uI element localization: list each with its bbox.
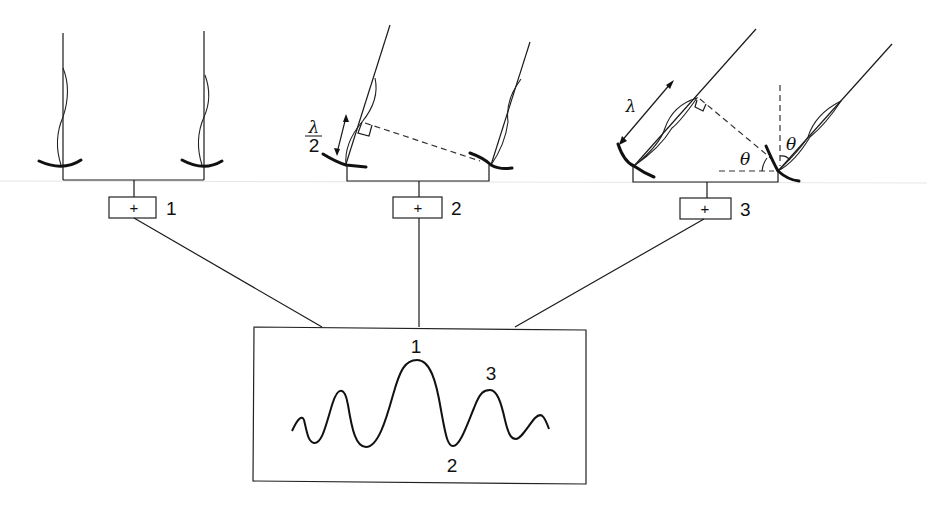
config-1: + 1 <box>39 31 322 327</box>
arrow-head-icon <box>619 136 627 145</box>
antenna-1b-dish-icon <box>182 160 222 166</box>
wavefront-line-2 <box>365 123 480 161</box>
antenna-2a-ray <box>346 25 390 164</box>
baseline-3 <box>633 166 778 182</box>
antenna-2b-ray <box>491 42 530 165</box>
antenna-2b-dish-icon <box>470 153 512 169</box>
config-label-2: 2 <box>451 198 462 219</box>
lambda-label: λ <box>625 96 637 116</box>
peak-label-3: 3 <box>486 363 497 384</box>
baseline-2 <box>347 165 489 181</box>
config-2: λ 2 + 2 <box>305 25 530 327</box>
theta-label-2: θ <box>786 134 796 154</box>
antenna-2a-dish-icon <box>323 154 366 167</box>
arrow-head-icon <box>334 148 340 156</box>
angle-arc-1 <box>762 158 767 171</box>
plus-symbol: + <box>701 200 710 217</box>
plus-symbol: + <box>414 199 423 216</box>
antenna-3a-ray <box>634 29 756 166</box>
config-label-3: 3 <box>740 199 751 220</box>
interferometer-diagram: + 1 λ 2 + 2 λ <box>0 0 927 506</box>
right-angle-marker <box>695 100 706 111</box>
theta-label-1: θ <box>740 149 750 169</box>
wavefront-line-3 <box>700 99 773 160</box>
connector-1 <box>134 218 322 327</box>
output-fringe-panel: 1 2 3 <box>253 327 586 484</box>
half-wavelength-arrow <box>337 117 346 153</box>
connector-3 <box>515 219 704 327</box>
peak-label-1: 1 <box>411 336 422 357</box>
lambda-denominator: 2 <box>309 135 320 156</box>
peak-label-2: 2 <box>447 455 458 476</box>
config-3: λ θ θ + 3 <box>515 29 892 327</box>
lambda-numerator: λ <box>308 117 320 137</box>
config-label-1: 1 <box>166 198 177 219</box>
plus-symbol: + <box>130 199 139 216</box>
arrow-head-icon <box>343 114 349 122</box>
